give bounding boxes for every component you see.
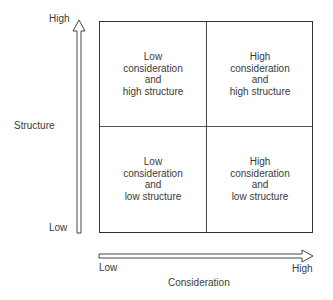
y-axis-high-label: High bbox=[49, 13, 70, 24]
quadrant-text: Low bbox=[123, 51, 184, 63]
quadrant-top-right: High consideration and high structure bbox=[207, 22, 313, 126]
quadrant-text: consideration bbox=[230, 63, 291, 75]
quadrant-text: and bbox=[123, 179, 182, 191]
x-axis-low-label: Low bbox=[99, 262, 117, 273]
quadrant-bottom-right: High consideration and low structure bbox=[207, 127, 313, 231]
quadrant-text: Low bbox=[123, 156, 182, 168]
quadrant-bottom-left: Low consideration and low structure bbox=[100, 127, 206, 231]
quadrant-top-left: Low consideration and high structure bbox=[100, 22, 206, 126]
quadrant-text: High bbox=[230, 156, 289, 168]
y-axis-low-label: Low bbox=[49, 222, 67, 233]
y-axis-title: Structure bbox=[14, 120, 55, 131]
x-axis-title: Consideration bbox=[168, 277, 230, 288]
quadrant-text: and bbox=[230, 179, 289, 191]
quadrant-text: high structure bbox=[230, 86, 291, 98]
quadrant-text: High bbox=[230, 51, 291, 63]
quadrant-text: consideration bbox=[230, 168, 289, 180]
quadrant-text: consideration bbox=[123, 168, 182, 180]
quadrant-text: and bbox=[230, 74, 291, 86]
quadrant-text: consideration bbox=[123, 63, 184, 75]
quadrant-text: high structure bbox=[123, 86, 184, 98]
vertical-arrow-icon bbox=[73, 20, 85, 233]
quadrant-grid: Low consideration and high structure Hig… bbox=[99, 21, 313, 233]
quadrant-text: low structure bbox=[123, 191, 182, 203]
quadrant-text: and bbox=[123, 74, 184, 86]
horizontal-arrow-icon bbox=[99, 250, 313, 262]
quadrant-text: low structure bbox=[230, 191, 289, 203]
x-axis-high-label: High bbox=[292, 263, 313, 274]
